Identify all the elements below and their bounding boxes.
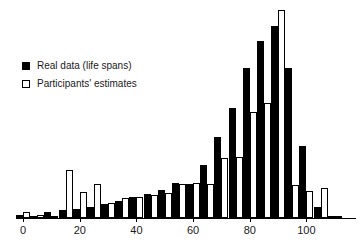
x-tick-label-0: 0 [20, 224, 26, 237]
bar-real-data-100 [299, 146, 306, 218]
bar-real-data-25 [87, 207, 94, 218]
bar-participants-estimates-20 [80, 192, 87, 218]
x-axis-line [16, 218, 356, 219]
bar-real-data-15 [59, 210, 66, 218]
bar-participants-estimates-35 [122, 198, 129, 218]
bar-real-data-75 [229, 108, 236, 218]
x-tick-label-80: 80 [244, 224, 256, 237]
bar-participants-estimates-30 [108, 203, 115, 218]
bar-real-data-35 [115, 201, 122, 218]
bar-participants-estimates-85 [264, 103, 271, 218]
bar-real-data-90 [271, 26, 278, 218]
plot-area [16, 10, 356, 218]
bar-participants-estimates-60 [193, 183, 200, 218]
bar-real-data-85 [257, 41, 264, 218]
x-tick-20 [80, 219, 81, 222]
bar-participants-estimates-40 [136, 197, 143, 218]
bar-real-data-70 [214, 137, 221, 218]
x-tick-label-40: 40 [130, 224, 142, 237]
bar-real-data-105 [314, 207, 321, 218]
bar-participants-estimates-25 [94, 184, 101, 218]
bar-participants-estimates-70 [221, 158, 228, 218]
bar-participants-estimates-80 [250, 112, 257, 218]
bar-participants-estimates-15 [66, 170, 73, 218]
bar-participants-estimates-65 [207, 184, 214, 218]
bar-participants-estimates-50 [165, 193, 172, 218]
bar-real-data-50 [158, 190, 165, 218]
bar-participants-estimates-95 [292, 185, 299, 218]
x-tick-label-60: 60 [187, 224, 199, 237]
life-spans-histogram-figure: Real data (life spans) Participants' est… [0, 0, 362, 247]
bar-real-data-60 [186, 184, 193, 218]
x-tick-60 [193, 219, 194, 222]
bar-real-data-80 [243, 68, 250, 218]
bar-participants-estimates-75 [236, 157, 243, 218]
bar-participants-estimates-90 [278, 10, 285, 218]
x-tick-0 [23, 219, 24, 222]
bar-participants-estimates-105 [321, 188, 328, 218]
bar-participants-estimates-100 [306, 191, 313, 218]
bar-participants-estimates-45 [151, 195, 158, 218]
x-tick-80 [250, 219, 251, 222]
x-tick-label-20: 20 [74, 224, 86, 237]
x-tick-40 [136, 219, 137, 222]
bar-real-data-45 [144, 194, 151, 218]
bar-real-data-55 [172, 183, 179, 218]
bar-real-data-30 [101, 204, 108, 218]
bar-real-data-40 [129, 197, 136, 218]
bar-real-data-20 [73, 209, 80, 218]
x-tick-100 [306, 219, 307, 222]
bar-participants-estimates-55 [179, 184, 186, 218]
x-tick-label-100: 100 [297, 224, 315, 237]
bar-real-data-65 [200, 165, 207, 218]
bar-group-container [16, 10, 356, 218]
bar-real-data-95 [285, 68, 292, 218]
